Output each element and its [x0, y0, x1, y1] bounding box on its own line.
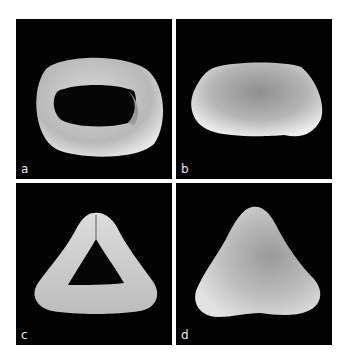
grain-c-image [16, 183, 172, 345]
panel-label-d: d [181, 329, 189, 341]
panel-d: d [176, 183, 332, 345]
panel-label-b: b [181, 163, 189, 175]
grain-d-image [176, 183, 332, 345]
panel-c: c [16, 183, 172, 345]
panel-b: b [176, 19, 332, 179]
panel-label-c: c [21, 329, 28, 341]
grain-a-image [16, 19, 172, 179]
panel-a: a [16, 19, 172, 179]
panel-label-a: a [21, 163, 28, 175]
grain-b-image [176, 19, 332, 179]
